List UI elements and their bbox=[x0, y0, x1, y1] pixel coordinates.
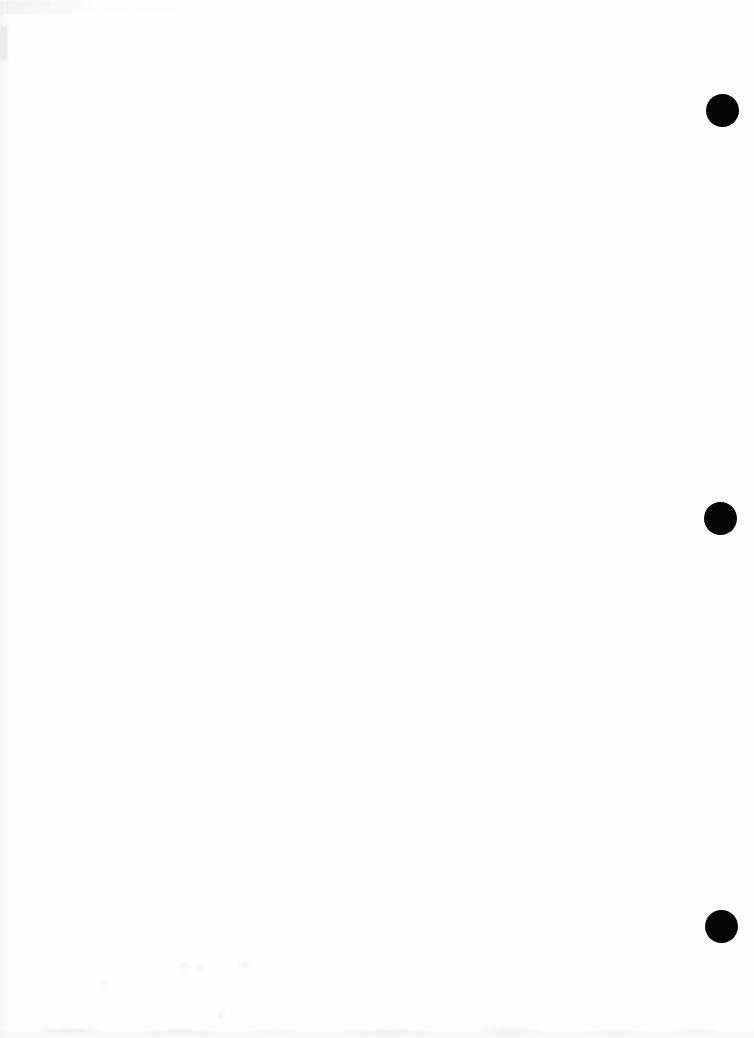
page-surface bbox=[0, 0, 754, 1038]
register-mark-middle bbox=[704, 502, 737, 535]
scanned-document-page bbox=[0, 0, 754, 1038]
register-mark-top bbox=[706, 94, 739, 127]
register-mark-bottom bbox=[705, 910, 738, 943]
